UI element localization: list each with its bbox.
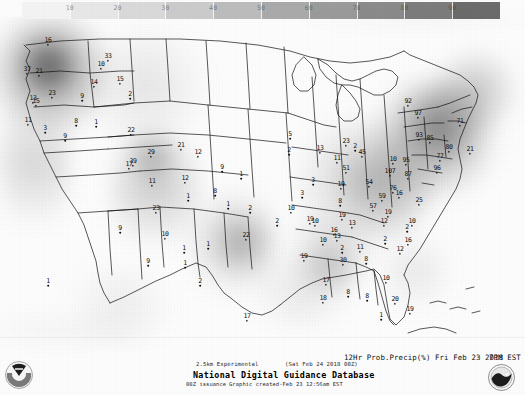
station-value-text: 2: [353, 143, 357, 150]
station-marker-dot: [290, 212, 292, 214]
nws-seal-icon: [487, 363, 516, 392]
station-value: 96: [433, 165, 440, 174]
station-value: 8: [365, 293, 369, 302]
station-value: 22: [127, 127, 134, 136]
station-value: 107: [385, 168, 396, 177]
station-value: 9: [118, 225, 122, 234]
station-value: 8: [338, 198, 342, 207]
station-value: 8: [213, 188, 217, 197]
colorbar: 10 20 30 40 50 60 70 80 90: [22, 2, 500, 19]
station-value: 77: [436, 153, 443, 162]
station-value-text: 9: [146, 258, 150, 265]
station-value-text: 71: [456, 118, 463, 125]
station-marker-dot: [341, 219, 343, 221]
station-value: 10: [97, 61, 104, 70]
station-value-text: 13: [348, 220, 355, 227]
station-marker-dot: [322, 244, 324, 246]
station-value: 18: [319, 295, 326, 304]
station-marker-dot: [448, 151, 450, 153]
station-marker-dot: [227, 208, 229, 210]
station-value: 9: [80, 93, 84, 102]
station-value-text: 54: [365, 179, 372, 186]
station-value: 8: [74, 118, 78, 127]
station-value: 1: [239, 171, 243, 180]
station-value: 12: [181, 175, 188, 184]
station-marker-dot: [64, 140, 66, 142]
colorbar-segment: [22, 2, 70, 19]
colorbar-tick-label: 20: [113, 5, 121, 12]
station-value: 21: [466, 146, 473, 155]
station-value-text: 2: [128, 91, 132, 98]
station-value: 19: [306, 216, 313, 225]
station-marker-dot: [207, 248, 209, 250]
station-value-text: 30: [339, 257, 346, 264]
station-value-text: 8: [364, 256, 368, 263]
station-value: 85: [426, 135, 433, 144]
station-value-text: 10: [408, 218, 415, 225]
station-value-text: 2: [340, 245, 344, 252]
station-value-text: 10: [161, 231, 168, 238]
station-value: 16: [404, 237, 411, 246]
weather-map-page: 10 20 30 40 50 60 70 80 90: [0, 0, 525, 395]
station-marker-dot: [246, 320, 248, 322]
page-title: National Digital Guidance Database: [193, 370, 375, 380]
colorbar-tick-label: 50: [257, 5, 265, 12]
station-value-text: 23: [48, 90, 55, 97]
station-value-text: 59: [378, 193, 385, 200]
noaa-seal-icon: [4, 360, 34, 390]
station-marker-dot: [150, 156, 152, 158]
station-value-text: 11: [148, 178, 155, 185]
station-value-text: 17: [322, 277, 329, 284]
station-value: 19: [338, 212, 345, 221]
station-marker-dot: [325, 284, 327, 286]
station-value-text: 17: [243, 313, 250, 320]
station-value: 30: [339, 257, 346, 266]
colorbar-tick-label: 40: [209, 5, 217, 12]
station-value: 9: [63, 133, 67, 142]
station-marker-dot: [309, 223, 311, 225]
station-value: 19: [337, 181, 344, 190]
station-value: 57: [369, 203, 376, 212]
station-value: 71: [456, 118, 463, 127]
station-value: 17: [243, 313, 250, 322]
station-value-text: 23: [342, 138, 349, 145]
station-value-text: 37: [23, 66, 30, 73]
station-marker-dot: [276, 225, 278, 227]
station-value: 92: [404, 98, 411, 107]
station-value: 13: [333, 233, 340, 242]
station-marker-dot: [381, 200, 383, 202]
station-marker-dot: [406, 231, 408, 233]
station-value-text: 2: [275, 218, 279, 225]
station-value-text: 13: [333, 233, 340, 240]
station-value: 1: [94, 119, 98, 128]
station-value: 2: [198, 278, 202, 287]
station-marker-dot: [184, 267, 186, 269]
station-value-text: 87: [404, 171, 411, 178]
station-value: 2: [128, 91, 132, 100]
graphic-created-label: Graphic created-Feb 23 12:56am EST: [229, 381, 343, 387]
station-marker-dot: [289, 138, 291, 140]
station-marker-dot: [411, 225, 413, 227]
station-value: 25: [415, 197, 422, 206]
station-value-text: 8: [346, 289, 350, 296]
station-marker-dot: [249, 212, 251, 214]
station-value-text: 8: [338, 198, 342, 205]
station-value-text: 21: [35, 68, 42, 75]
station-value-text: 9: [220, 164, 224, 171]
station-value-text: 8: [213, 188, 217, 195]
station-value-text: 1: [206, 241, 210, 248]
station-marker-dot: [322, 302, 324, 304]
station-value-text: 19: [306, 216, 313, 223]
colorbar-tick-label: 10: [66, 5, 74, 12]
station-value: 9: [146, 258, 150, 267]
station-marker-dot: [119, 232, 121, 234]
station-value: 8: [346, 289, 350, 298]
station-value-text: 51: [342, 165, 349, 172]
station-value-text: 85: [426, 135, 433, 142]
station-marker-dot: [303, 260, 305, 262]
station-value-text: 25: [415, 197, 422, 204]
station-value: 14: [90, 79, 97, 88]
station-value-text: 15: [116, 76, 123, 83]
station-marker-dot: [47, 285, 49, 287]
station-value-text: 1: [183, 260, 187, 267]
